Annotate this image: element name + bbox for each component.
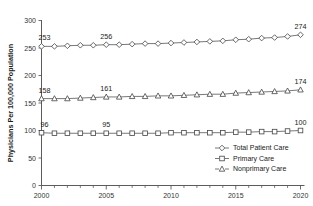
- x-tick-label: 2015: [228, 192, 244, 199]
- x-axis-minor-ticks: [42, 186, 301, 190]
- data-point-diamond-icon: [116, 42, 122, 48]
- data-point-diamond-icon: [168, 40, 174, 46]
- y-axis-group: 050100150200250300 Physicians Per 100,00…: [6, 17, 42, 189]
- y-tick-label: 150: [24, 100, 36, 107]
- data-point-square-icon: [143, 131, 148, 136]
- data-point-label: 253: [39, 33, 51, 42]
- data-point-square-icon: [298, 128, 303, 133]
- legend-item-total-patient-care[interactable]: Total Patient Care: [215, 144, 289, 151]
- data-point-square-icon: [52, 131, 57, 136]
- data-point-label: 161: [100, 84, 112, 93]
- data-point-square-icon: [272, 129, 277, 134]
- data-point-triangle-icon: [298, 87, 304, 92]
- chart-canvas: 050100150200250300 Physicians Per 100,00…: [0, 0, 313, 206]
- data-point-square-icon: [233, 130, 238, 135]
- x-axis-group: 20002005201020152020: [34, 186, 309, 199]
- data-point-square-icon: [246, 130, 251, 135]
- y-axis-tick-labels: 050100150200250300: [24, 17, 36, 189]
- data-point-square-icon: [130, 131, 135, 136]
- data-point-square-icon: [104, 131, 109, 136]
- data-point-label: 256: [100, 32, 112, 41]
- data-point-square-icon: [39, 130, 44, 135]
- data-point-diamond-icon: [52, 44, 58, 50]
- x-tick-label: 2020: [293, 192, 309, 199]
- data-point-diamond-icon: [194, 39, 200, 45]
- legend-label: Total Patient Care: [233, 144, 289, 151]
- y-axis-title: Physicians Per 100,000 Population: [6, 44, 15, 162]
- y-tick-label: 50: [28, 155, 36, 162]
- series-total-patient-care: [39, 32, 304, 49]
- data-point-diamond-icon: [272, 35, 278, 41]
- y-tick-label: 200: [24, 72, 36, 79]
- x-axis-tick-labels: 20002005201020152020: [34, 192, 309, 199]
- data-point-diamond-icon: [129, 41, 135, 47]
- x-tick-label: 2000: [34, 192, 50, 199]
- legend-diamond-icon: [219, 145, 225, 151]
- data-point-square-icon: [117, 131, 122, 136]
- chart-legend: Total Patient CarePrimary CareNonprimary…: [215, 144, 289, 173]
- legend-triangle-icon: [219, 166, 225, 171]
- data-point-diamond-icon: [207, 39, 213, 45]
- data-point-diamond-icon: [155, 41, 161, 47]
- line-chart: 050100150200250300 Physicians Per 100,00…: [0, 0, 313, 206]
- legend-square-icon: [220, 156, 225, 161]
- data-point-diamond-icon: [65, 43, 71, 49]
- legend-label: Primary Care: [233, 155, 274, 163]
- data-point-diamond-icon: [91, 42, 97, 48]
- data-point-label: 96: [41, 120, 49, 129]
- data-point-square-icon: [182, 130, 187, 135]
- data-point-diamond-icon: [285, 34, 291, 40]
- data-point-square-icon: [208, 130, 213, 135]
- data-point-square-icon: [221, 130, 226, 135]
- y-tick-label: 250: [24, 45, 36, 52]
- legend-item-primary-care[interactable]: Primary Care: [215, 155, 274, 163]
- data-point-diamond-icon: [78, 42, 84, 48]
- data-point-label: 274: [295, 22, 307, 31]
- data-point-label: 158: [39, 86, 51, 95]
- data-point-square-icon: [285, 129, 290, 134]
- data-point-label: 95: [102, 120, 110, 129]
- data-point-square-icon: [78, 131, 83, 136]
- x-tick-label: 2010: [163, 192, 179, 199]
- data-point-label: 174: [295, 77, 307, 86]
- series-primary-care: [39, 128, 303, 135]
- data-point-square-icon: [156, 131, 161, 136]
- y-tick-label: 300: [24, 17, 36, 24]
- x-tick-label: 2005: [98, 192, 114, 199]
- data-point-diamond-icon: [246, 36, 252, 42]
- data-point-square-icon: [65, 131, 70, 136]
- y-tick-label: 0: [32, 182, 36, 189]
- data-point-diamond-icon: [233, 37, 239, 43]
- data-point-diamond-icon: [103, 42, 109, 48]
- series-nonprimary-care: [39, 87, 304, 101]
- data-point-square-icon: [195, 130, 200, 135]
- data-point-label: 100: [295, 118, 307, 127]
- data-point-diamond-icon: [298, 32, 304, 38]
- data-point-diamond-icon: [142, 41, 148, 47]
- data-point-diamond-icon: [181, 40, 187, 46]
- legend-label: Nonprimary Care: [233, 165, 286, 173]
- data-point-diamond-icon: [259, 35, 265, 41]
- data-series-group: [39, 32, 304, 136]
- data-point-square-icon: [91, 131, 96, 136]
- data-point-square-icon: [259, 129, 264, 134]
- data-point-square-icon: [169, 130, 174, 135]
- y-tick-label: 100: [24, 127, 36, 134]
- legend-item-nonprimary-care[interactable]: Nonprimary Care: [215, 165, 286, 173]
- data-point-diamond-icon: [220, 38, 226, 44]
